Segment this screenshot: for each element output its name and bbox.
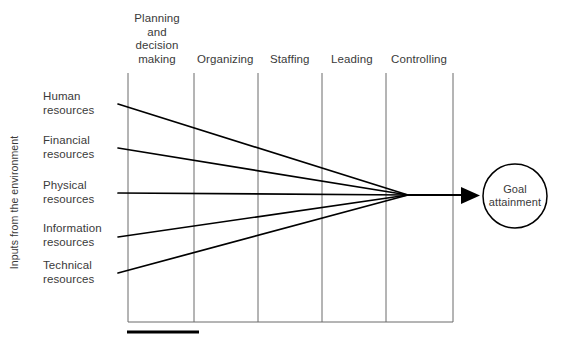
column-header-organizing: Organizing <box>197 53 254 67</box>
input-label-financial-resources: Financial resources <box>43 134 94 161</box>
flow-line-human <box>118 104 408 195</box>
axis-caption-inputs-from-environment: Inputs from the environment <box>8 123 21 283</box>
column-header-staffing: Staffing <box>270 53 310 67</box>
flow-line-technical <box>118 195 408 273</box>
column-header-controlling: Controlling <box>391 53 447 67</box>
goal-arrow <box>408 187 480 204</box>
input-label-information-resources: Information resources <box>43 222 102 249</box>
diagram-canvas <box>0 0 562 342</box>
flow-line-physical <box>118 193 408 195</box>
input-label-technical-resources: Technical resources <box>43 259 94 286</box>
column-divider-lines <box>128 73 453 322</box>
flow-line-financial <box>118 148 408 195</box>
resource-flow-lines <box>118 104 408 273</box>
goal-attainment-label-line1: Goal <box>478 183 552 196</box>
goal-attainment-label-line2: attainment <box>478 196 552 209</box>
column-header-leading: Leading <box>331 53 373 67</box>
flow-line-information <box>118 195 408 237</box>
input-label-human-resources: Human resources <box>43 90 94 117</box>
column-header-planning: Planning and decision making <box>126 12 188 66</box>
management-process-diagram: Inputs from the environment Planning and… <box>0 0 562 342</box>
input-label-physical-resources: Physical resources <box>43 179 94 206</box>
